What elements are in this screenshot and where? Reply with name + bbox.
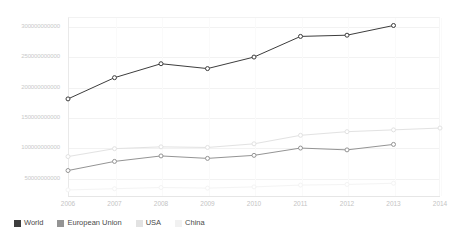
chart-legend: WorldEuropean UnionUSAChina bbox=[14, 216, 219, 230]
data-point-marker[interactable] bbox=[438, 126, 442, 130]
data-point-marker[interactable] bbox=[392, 142, 396, 146]
legend-swatch-icon bbox=[57, 220, 64, 227]
data-point-marker[interactable] bbox=[66, 155, 70, 159]
series-world bbox=[66, 23, 396, 100]
data-point-marker[interactable] bbox=[345, 130, 349, 134]
data-point-marker[interactable] bbox=[252, 153, 256, 157]
data-point-marker[interactable] bbox=[252, 55, 256, 59]
data-point-marker[interactable] bbox=[392, 23, 396, 27]
legend-swatch-icon bbox=[14, 220, 21, 227]
data-point-marker[interactable] bbox=[113, 76, 117, 80]
data-point-marker[interactable] bbox=[159, 145, 163, 149]
data-point-marker[interactable] bbox=[113, 187, 117, 191]
data-point-marker[interactable] bbox=[206, 156, 210, 160]
data-point-marker[interactable] bbox=[206, 67, 210, 71]
legend-swatch-icon bbox=[136, 220, 143, 227]
data-point-marker[interactable] bbox=[345, 182, 349, 186]
data-point-marker[interactable] bbox=[159, 62, 163, 66]
data-point-marker[interactable] bbox=[392, 181, 396, 185]
data-point-marker[interactable] bbox=[345, 148, 349, 152]
data-point-marker[interactable] bbox=[252, 185, 256, 189]
data-point-marker[interactable] bbox=[159, 186, 163, 190]
data-point-marker[interactable] bbox=[206, 145, 210, 149]
data-point-marker[interactable] bbox=[252, 142, 256, 146]
data-point-marker[interactable] bbox=[113, 147, 117, 151]
legend-label: USA bbox=[146, 219, 161, 227]
data-point-marker[interactable] bbox=[299, 146, 303, 150]
data-point-marker[interactable] bbox=[66, 188, 70, 192]
legend-item-china[interactable]: China bbox=[175, 219, 205, 227]
data-point-marker[interactable] bbox=[299, 133, 303, 137]
data-point-marker[interactable] bbox=[392, 128, 396, 132]
data-point-marker[interactable] bbox=[345, 33, 349, 37]
data-point-marker[interactable] bbox=[299, 34, 303, 38]
data-point-marker[interactable] bbox=[159, 154, 163, 158]
legend-swatch-icon bbox=[175, 220, 182, 227]
legend-item-world[interactable]: World bbox=[14, 219, 43, 227]
legend-label: European Union bbox=[67, 219, 121, 227]
data-point-marker[interactable] bbox=[66, 97, 70, 101]
legend-label: China bbox=[185, 219, 205, 227]
legend-item-usa[interactable]: USA bbox=[136, 219, 161, 227]
data-point-marker[interactable] bbox=[299, 183, 303, 187]
series-line bbox=[68, 25, 394, 98]
chart-screenshot: 5000000000010000000000015000000000020000… bbox=[0, 0, 459, 242]
data-point-marker[interactable] bbox=[66, 169, 70, 173]
legend-item-european-union[interactable]: European Union bbox=[57, 219, 121, 227]
chart-series-layer bbox=[0, 0, 459, 242]
data-point-marker[interactable] bbox=[113, 159, 117, 163]
legend-label: World bbox=[24, 219, 43, 227]
series-china bbox=[66, 181, 396, 192]
data-point-marker[interactable] bbox=[206, 186, 210, 190]
